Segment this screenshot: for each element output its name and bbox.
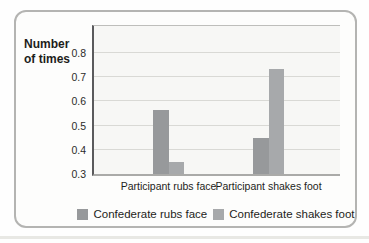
bar-series2-cat1 xyxy=(169,162,185,174)
bar-series1-cat1 xyxy=(153,110,169,174)
y-tick-label: 0.4 xyxy=(52,143,86,157)
x-category-label: Participant shakes foot xyxy=(214,180,324,193)
plot-area xyxy=(92,25,340,176)
y-tick-label: 0.3 xyxy=(52,167,86,181)
y-tick-label: 0.6 xyxy=(52,94,86,108)
y-tick-label: 0.8 xyxy=(52,46,86,60)
gridline xyxy=(94,76,340,77)
page-artifact-line xyxy=(0,236,369,239)
bar-series2-cat2 xyxy=(269,69,285,174)
gridline xyxy=(94,149,340,150)
x-category-label: Participant rubs face xyxy=(114,180,224,193)
legend-swatch xyxy=(213,209,224,220)
gridline xyxy=(94,125,340,126)
y-tick-label: 0.5 xyxy=(52,119,86,133)
legend-swatch xyxy=(77,209,88,220)
legend-label: Confederate rubs face xyxy=(93,208,207,220)
y-tick-label: 0.7 xyxy=(52,70,86,84)
gridline xyxy=(94,52,340,53)
legend-item: Confederate shakes foot xyxy=(213,207,354,221)
legend: Confederate rubs faceConfederate shakes … xyxy=(92,207,340,221)
gridline xyxy=(94,100,340,101)
bar-series1-cat2 xyxy=(253,138,269,174)
screenshot-root: Number of times Confederate rubs faceCon… xyxy=(0,0,369,243)
legend-item: Confederate rubs face xyxy=(77,207,207,221)
legend-label: Confederate shakes foot xyxy=(229,208,354,220)
